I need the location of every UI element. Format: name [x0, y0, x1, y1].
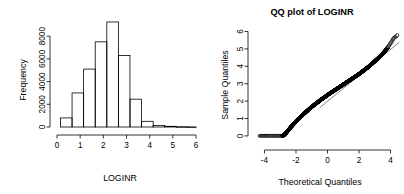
- figure-canvas: 0123456 02000400060008000 LOGINR Frequen…: [0, 0, 404, 194]
- histogram-bar: [176, 127, 188, 128]
- qq-y-tick-label: 4: [236, 64, 245, 69]
- histogram-bar: [130, 99, 142, 127]
- histogram-x-tick-label: 4: [147, 141, 152, 150]
- histogram-plot: 0123456 02000400060008000 LOGINR Frequen…: [0, 0, 202, 194]
- histogram-x-axis-title: LOGINR: [103, 173, 137, 183]
- histogram-panel: 0123456 02000400060008000 LOGINR Frequen…: [0, 0, 202, 194]
- histogram-axes: [47, 36, 197, 138]
- qq-x-tick-label: -4: [261, 156, 269, 165]
- histogram-bar: [95, 42, 107, 127]
- histogram-x-tick-label: 1: [78, 141, 83, 150]
- qq-y-axis-title: Sample Quantiles: [220, 50, 230, 120]
- histogram-y-tick-label: 4000: [38, 72, 47, 91]
- histogram-bar: [142, 121, 154, 127]
- qq-x-tick-label: 0: [325, 156, 330, 165]
- histogram-y-axis-title: Frequency: [18, 59, 28, 101]
- qq-plot-title: QQ plot of LOGINR: [270, 7, 354, 17]
- qq-y-tick-label: 2: [236, 98, 245, 103]
- qq-data-points: [258, 34, 399, 138]
- histogram-x-tick-label: 6: [194, 141, 199, 150]
- histogram-x-tick-label: 0: [55, 141, 60, 150]
- histogram-y-tick-label: 6000: [38, 49, 47, 68]
- qq-y-tick-label: 6: [236, 29, 245, 34]
- histogram-x-tick-label: 3: [124, 141, 129, 150]
- histogram-x-tick-label: 2: [101, 141, 106, 150]
- histogram-x-tick-label: 5: [171, 141, 176, 150]
- histogram-bar: [118, 55, 130, 127]
- qq-x-tick-label: -2: [292, 156, 300, 165]
- qq-plot: QQ plot of LOGINR -4-2024 0123456 Theore…: [202, 0, 404, 194]
- histogram-bar: [188, 127, 196, 128]
- qq-x-axis-title: Theoretical Quantiles: [278, 177, 362, 187]
- qq-x-tick-labels: -4-2024: [261, 156, 393, 165]
- histogram-bar: [72, 93, 84, 127]
- histogram-y-tick-labels: 02000400060008000: [38, 27, 47, 130]
- qq-y-tick-label: 3: [236, 81, 245, 86]
- histogram-bar: [60, 118, 72, 127]
- qq-x-tick-label: 2: [357, 156, 362, 165]
- histogram-bar: [153, 126, 165, 127]
- histogram-x-tick-labels: 0123456: [55, 141, 199, 150]
- histogram-bar: [84, 69, 96, 127]
- histogram-bar: [165, 126, 177, 127]
- histogram-bars: [60, 22, 196, 128]
- histogram-bar: [107, 22, 119, 127]
- qq-y-tick-label: 1: [236, 116, 245, 121]
- histogram-y-tick-label: 0: [38, 124, 47, 129]
- qq-point: [396, 34, 399, 37]
- histogram-y-tick-label: 2000: [38, 95, 47, 114]
- qq-plot-panel: QQ plot of LOGINR -4-2024 0123456 Theore…: [202, 0, 404, 194]
- qq-x-tick-label: 4: [388, 156, 393, 165]
- qq-y-tick-label: 0: [236, 133, 245, 138]
- qq-y-tick-labels: 0123456: [236, 29, 245, 138]
- qq-y-tick-label: 5: [236, 46, 245, 51]
- histogram-y-tick-label: 8000: [38, 27, 47, 46]
